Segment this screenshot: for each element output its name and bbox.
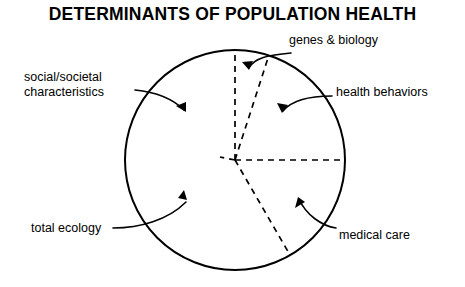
label-health-behaviors: health behaviors (336, 85, 428, 100)
pie-dividers (220, 50, 345, 255)
label-total-ecology: total ecology (31, 221, 101, 236)
arrow-health-behaviors (283, 96, 332, 111)
divider-social-stub (220, 157, 235, 160)
label-genes-and-biology: genes & biology (289, 33, 378, 48)
arrowheads (176, 61, 305, 208)
label-medical-care: medical care (339, 228, 410, 243)
diagram-canvas: DETERMINANTS OF POPULATION HEALTH (0, 0, 465, 287)
label-social-line-2: characteristics (24, 85, 104, 99)
divider-medical-care (235, 160, 290, 255)
arrow-total-ecology (113, 202, 186, 228)
label-social-societal-characteristics: social/societal characteristics (24, 70, 144, 100)
arrow-genes (249, 53, 291, 68)
divider-genes-right (235, 55, 269, 160)
pie-diagram (0, 0, 465, 287)
label-social-line-1: social/societal (24, 70, 102, 84)
arrowhead-total-ecology (178, 190, 187, 200)
